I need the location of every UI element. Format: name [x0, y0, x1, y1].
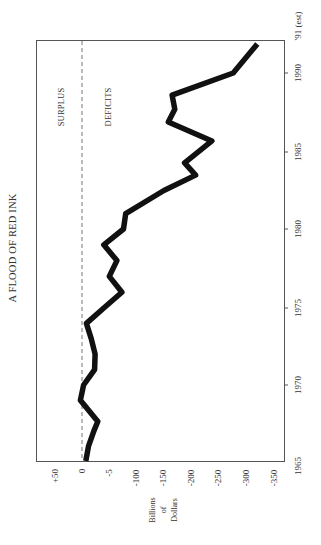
value-tick-label: -250 [214, 470, 223, 487]
plot-area [0, 0, 321, 545]
value-tick-label: -100 [132, 470, 141, 487]
plot-frame [37, 41, 285, 462]
value-tick-label: -5 [105, 469, 114, 477]
value-tick-label: -150 [159, 470, 168, 487]
chart-title: A FLOOD OF RED INK [8, 193, 19, 302]
value-tick-label: -200 [187, 470, 196, 487]
year-tick-label: 1975 [294, 299, 303, 317]
year-tick-label: 1980 [294, 220, 303, 238]
value-tick-label: -350 [270, 470, 279, 487]
deficits-label: DEFICITS [104, 88, 113, 127]
surplus-label: SURPLUS [57, 88, 66, 127]
year-tick-label: 1985 [294, 143, 303, 161]
deficit-chart: A FLOOD OF RED INK SURPLUS DEFICITS +500… [0, 0, 321, 545]
year-tick-label: 1990 [294, 64, 303, 82]
unit-label-line1: Billions [149, 497, 157, 522]
year-tick-label: '91 (est) [294, 12, 303, 41]
unit-label-line3: Dollars [171, 498, 179, 522]
unit-label-line2: of [160, 507, 168, 514]
value-tick-label: +50 [51, 469, 60, 483]
year-tick-label: 1965 [294, 457, 303, 475]
value-tick-label: 0 [78, 468, 87, 473]
year-tick-label: 1970 [294, 376, 303, 394]
value-tick-label: -300 [242, 470, 251, 487]
